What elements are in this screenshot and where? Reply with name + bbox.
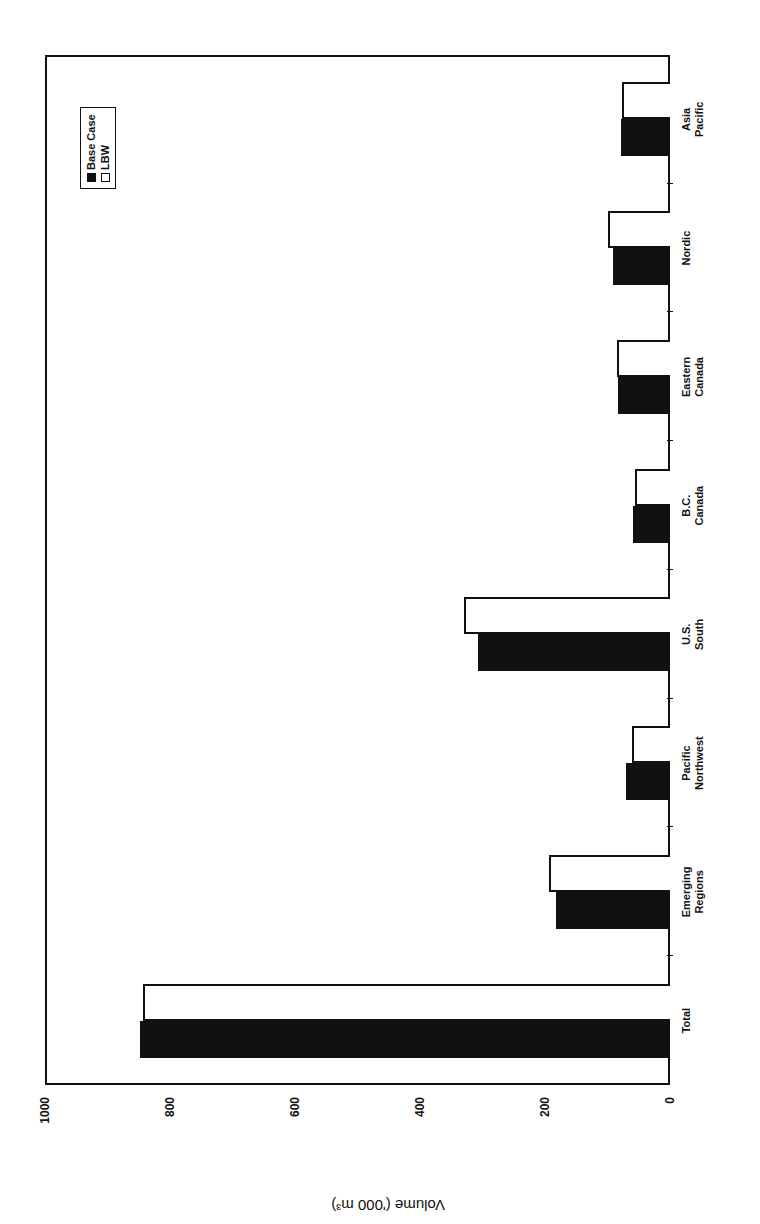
y-tick-label: 600: [288, 1097, 302, 1137]
bar-base-case: [140, 1021, 670, 1058]
x-tick: [667, 312, 673, 313]
x-tick: [667, 698, 673, 699]
y-tick-label: 0: [663, 1097, 677, 1137]
legend-swatch-lbw: [101, 173, 110, 182]
plot-frame: [45, 55, 670, 1085]
bar-lbw: [549, 855, 670, 892]
bar-lbw: [635, 469, 670, 506]
legend-label-base-case: Base Case: [84, 114, 98, 170]
bar-base-case: [613, 248, 670, 285]
y-tick-label: 200: [538, 1097, 552, 1137]
bar-base-case: [618, 377, 670, 414]
legend-item-lbw: LBW: [98, 114, 112, 182]
bar-base-case: [621, 119, 670, 156]
bar-base-case: [478, 634, 671, 671]
y-tick-label: 1000: [38, 1097, 52, 1137]
x-tick-label: Nordic: [680, 193, 693, 303]
x-tick: [667, 827, 673, 828]
x-tick-label: EasternCanada: [680, 322, 706, 432]
bar-lbw: [617, 340, 670, 377]
legend-item-base-case: Base Case: [84, 114, 98, 182]
legend-label-lbw: LBW: [98, 145, 112, 170]
x-tick: [667, 955, 673, 956]
x-tick: [667, 569, 673, 570]
legend: Base Case LBW: [80, 107, 116, 189]
y-axis-label: Volume ('000 m³): [331, 1197, 445, 1214]
x-tick-label: U.S.South: [680, 579, 706, 689]
bar-lbw: [632, 726, 670, 763]
y-tick-label: 400: [413, 1097, 427, 1137]
bar-base-case: [626, 763, 670, 800]
bar-lbw: [622, 82, 670, 119]
bar-lbw: [464, 597, 670, 634]
chart-canvas: Volume ('000 m³) 02004006008001000 Total…: [0, 0, 760, 1224]
x-tick-label: PacificNorthwest: [680, 708, 706, 818]
bar-base-case: [556, 892, 670, 929]
bar-lbw: [608, 211, 671, 248]
bar-lbw: [143, 984, 670, 1021]
x-tick: [667, 183, 673, 184]
bar-base-case: [633, 506, 670, 543]
x-tick-label: B.C.Canada: [680, 451, 706, 561]
x-tick-label: AsiaPacific: [680, 64, 706, 174]
y-tick-label: 800: [163, 1097, 177, 1137]
x-tick-label: EmergingRegions: [680, 837, 706, 947]
x-tick: [667, 440, 673, 441]
legend-swatch-base-case: [87, 173, 96, 182]
x-tick-label: Total: [680, 966, 693, 1076]
